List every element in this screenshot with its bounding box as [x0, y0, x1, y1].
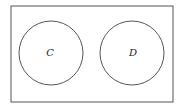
set-d-label: D [128, 47, 137, 58]
set-c-label: C [46, 47, 54, 58]
venn-diagram: C D [0, 0, 183, 108]
universe-rectangle [11, 6, 173, 102]
